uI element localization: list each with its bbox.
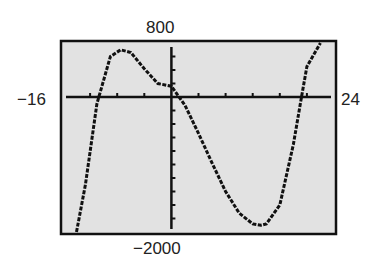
- ymax-label: 800: [146, 19, 174, 36]
- graph-window: [0, 0, 377, 272]
- ymin-label: −2000: [133, 240, 181, 257]
- xmax-label: 24: [341, 91, 360, 108]
- xmin-label: −16: [17, 91, 46, 108]
